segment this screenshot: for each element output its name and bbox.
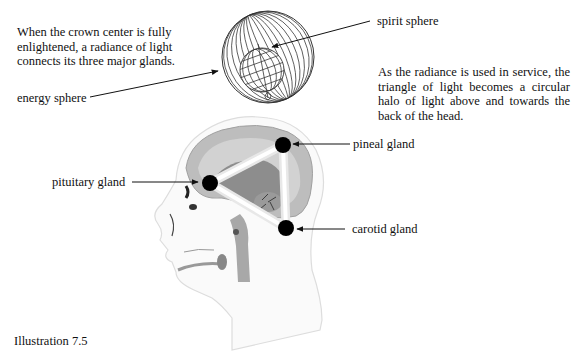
carotid-gland-node <box>278 220 294 236</box>
energy-sphere-label: energy sphere <box>17 91 87 106</box>
spirit-sphere-graphic <box>231 43 293 100</box>
pituitary-gland-label: pituitary gland <box>52 175 125 190</box>
pineal-gland-label: pineal gland <box>353 137 414 152</box>
illustration-number: Illustration 7.5 <box>14 334 88 349</box>
head-illustration <box>155 117 324 350</box>
pineal-gland-node <box>275 137 291 153</box>
energy-sphere-arrow <box>90 71 218 97</box>
service-caption: As the radiance is used in service, the … <box>378 65 570 123</box>
pituitary-gland-node <box>202 175 218 191</box>
spirit-sphere-label: spirit sphere <box>377 14 438 29</box>
carotid-gland-label: carotid gland <box>352 222 418 237</box>
intro-caption: When the crown center is fully enlighten… <box>17 25 182 69</box>
